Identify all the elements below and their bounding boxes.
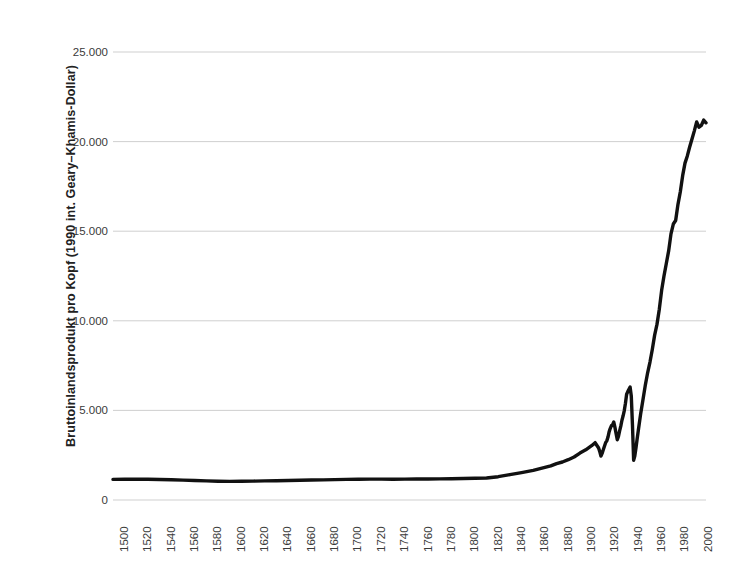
x-tick-label: 1900 [585,506,598,552]
x-tick-label: 1820 [492,506,505,552]
x-tick-label: 1560 [188,506,201,552]
y-tick-label: 5.000 [46,404,108,416]
x-tick-label: 1800 [468,506,481,552]
y-tick-label: 10.000 [46,315,108,327]
x-tick-label: 1860 [538,506,551,552]
x-tick-label: 1700 [351,506,364,552]
x-axis-tick-labels: 1500152015401560158016001620164016601680… [113,500,706,574]
x-tick-label: 1940 [632,506,645,552]
y-tick-label: 0 [46,494,108,506]
x-tick-label: 1780 [445,506,458,552]
x-tick-label: 2000 [702,506,715,552]
x-tick-label: 1680 [328,506,341,552]
x-tick-label: 1600 [235,506,248,552]
x-tick-label: 1620 [258,506,271,552]
plot-area [113,52,706,500]
y-tick-label: 15.000 [46,225,108,237]
data-line-0 [113,120,706,481]
x-tick-label: 1980 [678,506,691,552]
x-tick-label: 1760 [422,506,435,552]
x-tick-label: 1640 [281,506,294,552]
data-series-layer [113,120,706,481]
y-tick-label: 25.000 [46,46,108,58]
chart-svg [113,52,706,500]
chart-figure: Bruttoinlandsprodukt pro Kopf (1990 int.… [0,0,747,574]
y-axis-tick-labels: 05.00010.00015.00020.00025.000 [42,0,108,574]
x-tick-label: 1840 [515,506,528,552]
x-tick-label: 1660 [305,506,318,552]
x-tick-label: 1520 [141,506,154,552]
x-tick-label: 1740 [398,506,411,552]
x-tick-label: 1580 [211,506,224,552]
x-tick-label: 1540 [165,506,178,552]
x-tick-label: 1880 [562,506,575,552]
x-tick-label: 1500 [118,506,131,552]
x-tick-label: 1720 [375,506,388,552]
x-tick-label: 1960 [655,506,668,552]
y-tick-label: 20.000 [46,136,108,148]
x-tick-label: 1920 [608,506,621,552]
